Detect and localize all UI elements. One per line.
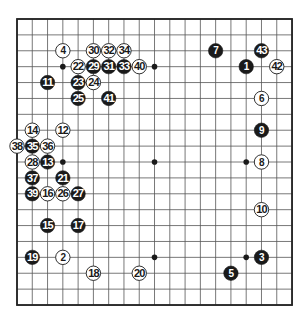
stone-white-36: 36 bbox=[40, 139, 54, 153]
stone-black-19: 19 bbox=[25, 250, 39, 264]
stone-white-34: 34 bbox=[117, 44, 131, 58]
move-number: 29 bbox=[88, 61, 100, 72]
stone-black-21: 21 bbox=[56, 171, 70, 185]
move-number: 28 bbox=[27, 157, 39, 168]
stone-white-30: 30 bbox=[86, 44, 100, 58]
stone-white-26: 26 bbox=[56, 187, 70, 201]
move-number: 20 bbox=[134, 268, 146, 279]
stone-white-2: 2 bbox=[56, 250, 70, 264]
move-number: 16 bbox=[42, 188, 54, 199]
star-point bbox=[243, 255, 249, 261]
move-number: 32 bbox=[103, 45, 115, 56]
move-number: 18 bbox=[88, 268, 100, 279]
move-number: 27 bbox=[73, 188, 85, 199]
stone-black-33: 33 bbox=[117, 59, 131, 73]
move-number: 23 bbox=[73, 77, 85, 88]
star-point bbox=[60, 159, 66, 165]
stone-black-11: 11 bbox=[40, 75, 54, 89]
move-number: 26 bbox=[58, 188, 70, 199]
stone-black-5: 5 bbox=[224, 266, 238, 280]
move-number: 13 bbox=[42, 157, 54, 168]
stone-black-17: 17 bbox=[71, 218, 85, 232]
move-number: 42 bbox=[272, 61, 284, 72]
star-point bbox=[152, 255, 158, 261]
stone-black-13: 13 bbox=[40, 155, 54, 169]
stone-white-18: 18 bbox=[86, 266, 100, 280]
stone-black-3: 3 bbox=[254, 250, 268, 264]
move-number: 22 bbox=[73, 61, 85, 72]
move-number: 15 bbox=[42, 220, 54, 231]
stone-white-28: 28 bbox=[25, 155, 39, 169]
move-number: 38 bbox=[12, 141, 24, 152]
stone-white-16: 16 bbox=[40, 187, 54, 201]
stone-white-4: 4 bbox=[56, 44, 70, 58]
move-number: 24 bbox=[88, 77, 100, 88]
stone-white-20: 20 bbox=[132, 266, 146, 280]
stone-white-10: 10 bbox=[254, 202, 268, 216]
stone-white-22: 22 bbox=[71, 59, 85, 73]
stone-black-25: 25 bbox=[71, 91, 85, 105]
move-number: 30 bbox=[88, 45, 100, 56]
move-number: 14 bbox=[27, 125, 39, 136]
move-number: 41 bbox=[103, 93, 115, 104]
star-point bbox=[60, 64, 66, 70]
stone-black-31: 31 bbox=[101, 59, 115, 73]
go-board: 1234567891011121314151617181920212223242… bbox=[0, 0, 302, 311]
stone-black-41: 41 bbox=[101, 91, 115, 105]
stone-white-12: 12 bbox=[56, 123, 70, 137]
stone-black-27: 27 bbox=[71, 187, 85, 201]
stone-white-8: 8 bbox=[254, 155, 268, 169]
move-number: 33 bbox=[119, 61, 131, 72]
move-number: 35 bbox=[27, 141, 39, 152]
move-number: 17 bbox=[73, 220, 85, 231]
move-number: 12 bbox=[58, 125, 70, 136]
stone-black-7: 7 bbox=[208, 44, 222, 58]
stone-white-32: 32 bbox=[101, 44, 115, 58]
stone-white-14: 14 bbox=[25, 123, 39, 137]
stone-black-35: 35 bbox=[25, 139, 39, 153]
move-number: 25 bbox=[73, 93, 85, 104]
move-number: 11 bbox=[42, 77, 54, 88]
go-board-grid: 1234567891011121314151617181920212223242… bbox=[0, 0, 302, 311]
move-number: 43 bbox=[256, 45, 268, 56]
move-number: 10 bbox=[256, 204, 268, 215]
move-number: 19 bbox=[27, 252, 39, 263]
move-number: 37 bbox=[27, 173, 39, 184]
move-number: 34 bbox=[119, 45, 131, 56]
stone-white-38: 38 bbox=[10, 139, 24, 153]
star-point bbox=[152, 64, 158, 70]
move-number: 31 bbox=[103, 61, 115, 72]
star-point bbox=[243, 159, 249, 165]
stone-black-37: 37 bbox=[25, 171, 39, 185]
move-number: 39 bbox=[27, 188, 39, 199]
star-point bbox=[152, 159, 158, 165]
stone-black-23: 23 bbox=[71, 75, 85, 89]
stone-black-9: 9 bbox=[254, 123, 268, 137]
stone-black-43: 43 bbox=[254, 44, 268, 58]
stone-black-1: 1 bbox=[239, 59, 253, 73]
stone-white-40: 40 bbox=[132, 59, 146, 73]
stone-white-42: 42 bbox=[270, 59, 284, 73]
move-number: 40 bbox=[134, 61, 146, 72]
stone-black-39: 39 bbox=[25, 187, 39, 201]
stone-white-6: 6 bbox=[254, 91, 268, 105]
move-number: 36 bbox=[42, 141, 54, 152]
stone-black-15: 15 bbox=[40, 218, 54, 232]
stone-white-24: 24 bbox=[86, 75, 100, 89]
stone-black-29: 29 bbox=[86, 59, 100, 73]
move-number: 21 bbox=[58, 173, 70, 184]
